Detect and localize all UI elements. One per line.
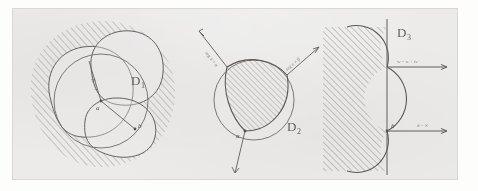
panel-1-canvas: a b R = r D 1 xyxy=(13,9,198,180)
panel-3-canvas: b w = u + iv d = ∞ D 3 xyxy=(313,9,458,180)
panel-2-canvas: a arg z = α arg z = β D 2 xyxy=(191,9,326,180)
origin-point-b xyxy=(386,130,389,133)
center-point-label: a xyxy=(96,104,100,112)
center-point-a xyxy=(100,100,103,103)
domain-subscript-d3: 3 xyxy=(407,33,411,42)
domain-label-d3: D xyxy=(397,25,406,40)
page-frame: a b R = r D 1 xyxy=(12,8,458,180)
boundary-point-label: b xyxy=(138,122,142,130)
arc-middle xyxy=(387,67,407,131)
domain-label-d2: D xyxy=(287,119,296,134)
panel-1-domain-d1: a b R = r D 1 xyxy=(13,9,198,180)
domain-label-d1: D xyxy=(131,73,140,88)
domain-subscript-d2: 2 xyxy=(297,127,301,136)
vertex-point-a xyxy=(244,130,247,133)
panel-3-domain-d3: b w = u + iv d = ∞ D 3 xyxy=(313,9,458,180)
domain-subscript-d1: 1 xyxy=(141,81,145,90)
upper-arrow-label: w = u + iv xyxy=(397,59,418,64)
boundary-point-b xyxy=(134,128,137,131)
vertex-point-label: a xyxy=(236,132,240,140)
outer-lobe-upper-right xyxy=(91,31,163,105)
lower-arrow-label: d = ∞ xyxy=(417,123,429,128)
scanned-figure: a b R = r D 1 xyxy=(0,0,478,191)
triangle-hatching-region xyxy=(191,9,326,180)
panel-2-domain-d2: a arg z = α arg z = β D 2 xyxy=(191,9,326,180)
ray-label-upper-left: arg z = α xyxy=(204,51,219,68)
origin-point-label: b xyxy=(391,122,395,130)
